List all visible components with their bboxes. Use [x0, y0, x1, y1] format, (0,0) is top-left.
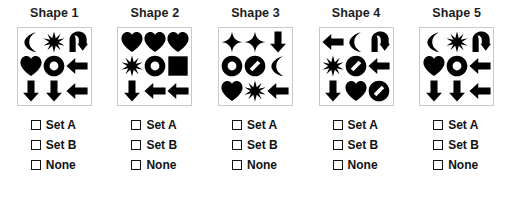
option-label: None	[348, 159, 378, 172]
checkbox-set-a[interactable]	[31, 120, 41, 130]
checkbox-set-b[interactable]	[433, 140, 443, 150]
option-row[interactable]: Set A	[333, 115, 378, 135]
option-row[interactable]: Set A	[131, 115, 176, 135]
crescent-moon-icon	[345, 31, 367, 53]
down-arrow-icon	[20, 80, 42, 102]
shape-column-title: Shape 4	[332, 6, 381, 20]
shape-column-title: Shape 3	[231, 6, 280, 20]
option-label: Set B	[348, 139, 379, 152]
glyph-grid	[117, 27, 192, 106]
option-label: None	[46, 159, 76, 172]
prohibition-sign-icon	[345, 55, 367, 77]
left-arrow-icon	[66, 55, 88, 77]
u-turn-arrow-icon	[469, 31, 491, 53]
four-point-sparkle-icon	[221, 31, 243, 53]
option-row[interactable]: Set A	[31, 115, 76, 135]
eight-point-star-icon	[322, 55, 344, 77]
option-row[interactable]: Set A	[433, 115, 478, 135]
heart-icon	[144, 31, 166, 53]
option-row[interactable]: None	[433, 155, 478, 175]
heart-icon	[121, 31, 143, 53]
checkbox-none[interactable]	[131, 160, 141, 170]
option-row[interactable]: None	[232, 155, 277, 175]
glyph-grid	[218, 27, 293, 106]
checkbox-set-b[interactable]	[232, 140, 242, 150]
left-arrow-icon	[368, 55, 390, 77]
ring-icon	[43, 55, 65, 77]
eight-point-star-icon	[121, 55, 143, 77]
left-arrow-icon	[267, 80, 289, 102]
option-group: Set ASet BNone	[117, 115, 192, 175]
checkbox-none[interactable]	[232, 160, 242, 170]
down-arrow-icon	[423, 80, 445, 102]
u-turn-arrow-icon	[368, 31, 390, 53]
checkbox-none[interactable]	[333, 160, 343, 170]
glyph-grid	[419, 27, 494, 106]
down-arrow-icon	[121, 80, 143, 102]
option-row[interactable]: None	[333, 155, 378, 175]
shape-column-2: Shape 2Set ASet BNone	[105, 6, 206, 212]
option-label: Set A	[46, 119, 76, 132]
glyph-grid	[319, 27, 394, 106]
shape-column-4: Shape 4Set ASet BNone	[306, 6, 407, 212]
option-row[interactable]: Set A	[232, 115, 277, 135]
left-arrow-icon	[469, 55, 491, 77]
option-row[interactable]: Set B	[433, 135, 479, 155]
option-row[interactable]: None	[131, 155, 176, 175]
left-arrow-icon	[469, 80, 491, 102]
checkbox-set-b[interactable]	[333, 140, 343, 150]
option-label: Set B	[247, 139, 278, 152]
crescent-moon-icon	[20, 31, 42, 53]
down-arrow-icon	[322, 80, 344, 102]
down-arrow-icon	[43, 80, 65, 102]
heart-icon	[167, 31, 189, 53]
shape-column-5: Shape 5Set ASet BNone	[406, 6, 507, 212]
shape-column-title: Shape 1	[30, 6, 79, 20]
left-arrow-icon	[66, 80, 88, 102]
shape-column-title: Shape 2	[131, 6, 180, 20]
option-label: None	[448, 159, 478, 172]
option-group: Set ASet BNone	[419, 115, 494, 175]
checkbox-set-a[interactable]	[333, 120, 343, 130]
option-label: Set B	[448, 139, 479, 152]
glyph-grid	[17, 27, 92, 106]
checkbox-set-a[interactable]	[232, 120, 242, 130]
four-point-sparkle-icon	[244, 31, 266, 53]
option-label: Set B	[146, 139, 177, 152]
ring-icon	[144, 55, 166, 77]
heart-icon	[345, 80, 367, 102]
checkbox-set-a[interactable]	[433, 120, 443, 130]
option-label: None	[146, 159, 176, 172]
prohibition-sign-icon	[368, 80, 390, 102]
option-label: Set A	[448, 119, 478, 132]
option-row[interactable]: Set B	[131, 135, 177, 155]
option-row[interactable]: Set B	[31, 135, 77, 155]
option-group: Set ASet BNone	[17, 115, 92, 175]
checkbox-set-b[interactable]	[31, 140, 41, 150]
heart-icon	[221, 80, 243, 102]
option-row[interactable]: Set B	[232, 135, 278, 155]
left-arrow-icon	[167, 80, 189, 102]
checkbox-set-a[interactable]	[131, 120, 141, 130]
option-label: Set A	[348, 119, 378, 132]
filled-square-icon	[167, 55, 189, 77]
down-arrow-icon	[267, 31, 289, 53]
heart-icon	[423, 55, 445, 77]
u-turn-arrow-icon	[66, 31, 88, 53]
checkbox-none[interactable]	[433, 160, 443, 170]
eight-point-star-icon	[446, 31, 468, 53]
checkbox-none[interactable]	[31, 160, 41, 170]
crescent-moon-icon	[423, 31, 445, 53]
crescent-moon-icon	[267, 55, 289, 77]
ring-icon	[221, 55, 243, 77]
option-label: None	[247, 159, 277, 172]
option-label: Set B	[46, 139, 77, 152]
left-arrow-icon	[322, 31, 344, 53]
shape-column-title: Shape 5	[432, 6, 481, 20]
option-row[interactable]: None	[31, 155, 76, 175]
option-row[interactable]: Set B	[333, 135, 379, 155]
heart-icon	[20, 55, 42, 77]
checkbox-set-b[interactable]	[131, 140, 141, 150]
option-label: Set A	[146, 119, 176, 132]
left-arrow-icon	[144, 80, 166, 102]
